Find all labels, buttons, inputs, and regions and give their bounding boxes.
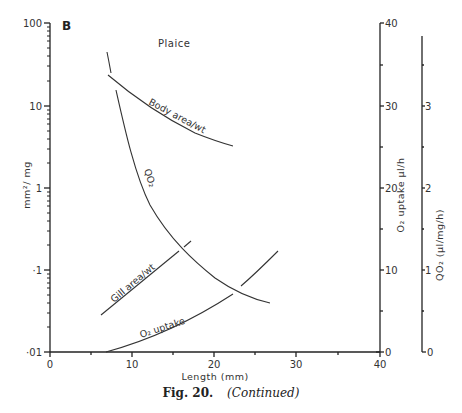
y-left-tick-0.1: ·1 xyxy=(32,265,42,276)
y-right2-tick-3: 3 xyxy=(425,101,431,112)
x-tick-10: 10 xyxy=(126,359,139,370)
label-gill-area: Gill area/wt xyxy=(108,261,157,304)
y-right2-tick-2: 2 xyxy=(425,183,431,194)
y-right2-tick-1: 1 xyxy=(425,265,431,276)
y-right1-tick-10: 10 xyxy=(385,265,398,276)
y-left-tick-10: 10 xyxy=(29,101,42,112)
x-tick-30: 30 xyxy=(290,359,303,370)
chart: 100 10 1 ·1 ·01 mm²/ mg 0 10 20 30 40 Le… xyxy=(0,0,462,413)
y-right2-tick-0: 0 xyxy=(427,347,433,358)
x-tick-40: 40 xyxy=(374,359,387,370)
panel-letter: B xyxy=(62,19,71,33)
y-right2-title: QO₂ (μl/mg/h) xyxy=(434,209,445,281)
y-axis-right-qo2 xyxy=(422,36,426,352)
curve-qo2-top-segment xyxy=(107,52,111,73)
y-right1-title: O₂ uptake μl/h xyxy=(395,158,406,233)
species-title: Plaice xyxy=(158,38,190,49)
label-body-area: Body area/wt xyxy=(147,96,208,135)
x-tick-0: 0 xyxy=(47,359,53,370)
curve-o2-uptake-end xyxy=(241,251,278,286)
y-left-tick-0.01: ·01 xyxy=(26,347,42,358)
figure-number: Fig. 20. xyxy=(163,386,214,400)
y-right1-tick-40: 40 xyxy=(385,18,398,29)
figure-caption: Fig. 20. (Continued) xyxy=(0,386,462,400)
y-left-tick-100: 100 xyxy=(23,18,42,29)
y-left-tick-1: 1 xyxy=(36,183,42,194)
x-axis xyxy=(50,352,380,357)
x-tick-20: 20 xyxy=(208,359,221,370)
y-axis-right-o2-uptake xyxy=(376,23,384,352)
figure-note: (Continued) xyxy=(227,386,299,400)
label-qo2: QO₂ xyxy=(142,167,158,188)
x-axis-title: Length (mm) xyxy=(181,371,248,382)
y-left-title: mm²/ mg xyxy=(21,161,32,208)
curve-gill-area-end xyxy=(184,241,191,247)
y-right1-tick-0: 0 xyxy=(385,347,391,358)
y-right1-tick-30: 30 xyxy=(385,101,398,112)
label-o2-uptake: O₂ uptake xyxy=(138,315,186,340)
